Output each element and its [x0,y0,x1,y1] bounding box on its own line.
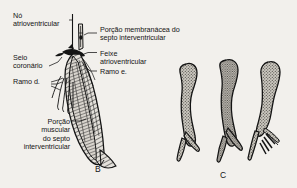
label-no-atrioventricular: Nó atrioventricular [13,12,77,29]
label-seio-coronario: Seio coronário [13,54,57,71]
panel-letter-c: C [220,170,226,180]
label-ramo-e: Ramo e. [100,68,140,76]
label-porcao-membranacea: Porção membranácea do septo interventric… [100,26,200,43]
label-porcao-muscular: Porção muscular do septo interventricula… [4,118,70,152]
label-ramo-d: Ramo d. [13,78,53,86]
label-feixe-atrioventricular: Feixe atrioventricular [100,50,164,67]
anatomy-figure: Nó atrioventricular Porção membranácea d… [0,0,297,188]
membranous-septum-shape [79,24,84,50]
panel-letter-b: B [95,164,101,174]
